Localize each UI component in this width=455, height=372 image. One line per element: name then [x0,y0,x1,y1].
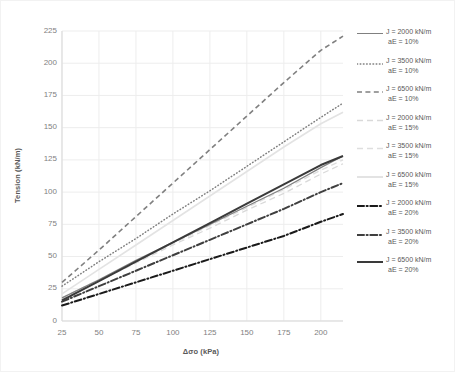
legend-entry[interactable]: J = 2000 kN/maE = 10% [357,29,455,50]
legend-label: J = 2000 kN/maE = 20% [386,198,431,218]
series-line [62,103,343,286]
legend-label-line2: aE = 10% [386,66,431,76]
legend-entry[interactable]: J = 3500 kN/maE = 20% [357,229,455,250]
plot-area-wrapper: Tension (kN/m) Δσo (kPa) 025507510012515… [1,1,455,372]
legend-label-line1: J = 3500 kN/m [386,142,431,149]
y-tick-label: 125 [31,154,57,163]
legend-label-line1: J = 3500 kN/m [386,228,431,235]
legend-label-line1: J = 6500 kN/m [386,85,431,92]
x-tick-label: 100 [160,328,186,337]
legend-label-line2: aE = 15% [386,123,431,133]
legend-swatch-icon [357,33,383,34]
legend-label-line2: aE = 10% [386,37,431,47]
legend-swatch-icon [357,261,383,263]
y-tick-label: 0 [31,316,57,325]
legend-swatch-icon [357,119,383,122]
legend-label: J = 3500 kN/maE = 10% [386,56,431,76]
legend-entry[interactable]: J = 3500 kN/maE = 10% [357,58,455,79]
legend-label-line1: J = 2000 kN/m [386,28,431,35]
legend-label: J = 2000 kN/maE = 10% [386,27,431,47]
series-line [62,36,343,282]
legend-label: J = 3500 kN/maE = 15% [386,141,431,161]
legend-label: J = 6500 kN/maE = 10% [386,84,431,104]
legend-label-line2: aE = 20% [386,237,431,247]
x-tick-label: 25 [49,328,75,337]
series-lines [62,36,343,305]
x-tick-label: 150 [234,328,260,337]
legend-swatch-icon [357,176,383,178]
legend-label: J = 6500 kN/maE = 20% [386,255,431,275]
y-tick-label: 225 [31,26,57,35]
y-tick-label: 50 [31,251,57,260]
y-tick-label: 25 [31,283,57,292]
legend-label: J = 3500 kN/maE = 20% [386,227,431,247]
legend-entry[interactable]: J = 2000 kN/maE = 20% [357,200,455,221]
legend-label-line1: J = 6500 kN/m [386,171,431,178]
legend-label-line2: aE = 15% [386,151,431,161]
legend-entry[interactable]: J = 3500 kN/maE = 15% [357,143,455,164]
series-line [62,112,343,294]
y-tick-label: 100 [31,187,57,196]
legend-label-line1: J = 3500 kN/m [386,57,431,64]
y-tick-label: 175 [31,90,57,99]
legend-label-line2: aE = 20% [386,208,431,218]
legend-label-line2: aE = 10% [386,94,431,104]
x-tick-label: 50 [86,328,112,337]
legend-entry[interactable]: J = 2000 kN/maE = 15% [357,115,455,136]
chart-legend: J = 2000 kN/maE = 10%J = 3500 kN/maE = 1… [357,29,455,286]
y-tick-label: 75 [31,219,57,228]
legend-label-line2: aE = 20% [386,265,431,275]
legend-swatch-icon [357,90,383,94]
y-tick-label: 200 [31,58,57,67]
legend-label: J = 6500 kN/maE = 15% [386,170,431,190]
legend-label-line2: aE = 15% [386,180,431,190]
y-tick-label: 150 [31,122,57,131]
legend-swatch-icon [357,62,383,66]
legend-swatch-icon [357,204,383,208]
legend-label-line1: J = 2000 kN/m [386,199,431,206]
legend-entry[interactable]: J = 6500 kN/maE = 20% [357,257,455,278]
x-axis-title: Δσo (kPa) [146,347,256,356]
legend-entry[interactable]: J = 6500 kN/maE = 15% [357,172,455,193]
y-axis-title: Tension (kN/m) [13,141,22,211]
legend-swatch-icon [357,147,383,150]
legend-label-line1: J = 6500 kN/m [386,256,431,263]
legend-entry[interactable]: J = 6500 kN/maE = 10% [357,86,455,107]
legend-label-line1: J = 2000 kN/m [386,114,431,121]
x-tick-label: 125 [197,328,223,337]
x-tick-label: 75 [123,328,149,337]
legend-label: J = 2000 kN/maE = 15% [386,113,431,133]
legend-swatch-icon [357,233,383,237]
x-tick-label: 175 [271,328,297,337]
chart-frame: Tension (kN/m) Δσo (kPa) 025507510012515… [0,0,455,372]
x-tick-label: 200 [308,328,334,337]
